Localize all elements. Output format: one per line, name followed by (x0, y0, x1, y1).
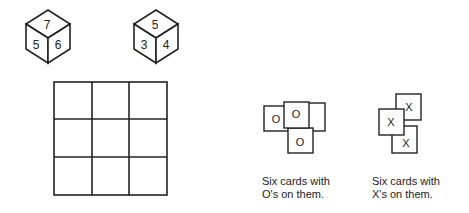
x-caption-line2: X's on them. (372, 188, 440, 201)
x-card-2: X (387, 116, 395, 128)
die-left-left: 5 (33, 38, 40, 52)
x-cards-stack: X X X (378, 92, 438, 160)
o-caption-line1: Six cards with (262, 175, 330, 188)
die-right-right: 4 (163, 38, 170, 52)
o-card-2: O (292, 108, 301, 120)
o-card-3: O (296, 136, 305, 148)
die-left-top: 7 (44, 18, 51, 32)
die-right-top: 5 (152, 18, 159, 32)
o-card-1: O (272, 113, 281, 125)
o-cards-caption: Six cards with O's on them. (262, 175, 330, 201)
die-left: 7 5 6 (20, 8, 76, 66)
die-left-right: 6 (55, 38, 62, 52)
x-card-1: X (405, 101, 413, 113)
x-caption-line1: Six cards with (372, 175, 440, 188)
x-card-3: X (402, 137, 410, 149)
o-caption-line2: O's on them. (262, 188, 330, 201)
tic-tac-toe-board (52, 80, 170, 198)
x-cards-caption: Six cards with X's on them. (372, 175, 440, 201)
o-cards-stack: O O O (260, 98, 330, 158)
die-right: 5 3 4 (128, 8, 184, 66)
die-right-left: 3 (141, 38, 148, 52)
